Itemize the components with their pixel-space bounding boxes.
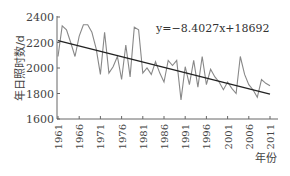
x-tick-label: 2006: [244, 124, 255, 149]
y-axis: 16001800200022002400: [26, 11, 60, 126]
x-tick-label: 2001: [223, 124, 234, 149]
x-tick-label: 1961: [53, 124, 64, 149]
x-axis-title: 年份: [255, 151, 277, 165]
x-axis: 1961196619711976198119861991199620012006…: [53, 116, 278, 149]
trend-equation: y=−8.4027x+18692: [155, 22, 270, 35]
y-tick-label: 1600: [26, 113, 54, 126]
trend-line: [58, 41, 270, 95]
x-tick-label: 1971: [95, 124, 106, 149]
x-tick-label: 1986: [159, 124, 170, 149]
x-tick-label: 1966: [74, 124, 85, 149]
line-chart: 16001800200022002400 1961196619711976198…: [0, 0, 290, 176]
sunshine-hours-line: [58, 25, 270, 100]
x-tick-label: 1996: [201, 124, 212, 149]
x-tick-label: 1976: [117, 124, 128, 149]
x-tick-label: 1981: [138, 124, 149, 149]
y-tick-label: 2400: [26, 11, 54, 24]
y-tick-label: 1800: [26, 88, 54, 101]
y-axis-title: 年日照时数/d: [13, 35, 27, 101]
y-tick-label: 2000: [26, 62, 54, 75]
x-tick-label: 2011: [265, 124, 276, 149]
x-tick-label: 1991: [180, 124, 191, 149]
y-tick-label: 2200: [26, 37, 54, 50]
